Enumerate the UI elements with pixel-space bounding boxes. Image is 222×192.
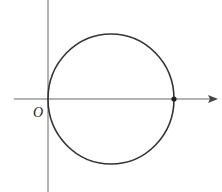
origin-label: O	[33, 105, 43, 120]
x-intercept-dot	[171, 96, 176, 101]
diagram-canvas: O	[0, 0, 222, 192]
